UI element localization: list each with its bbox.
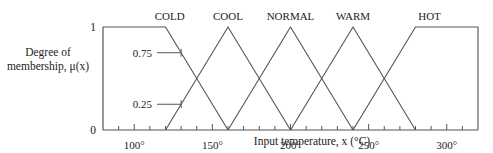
curve-normal (228, 27, 353, 130)
series-label-cold: COLD (155, 10, 185, 22)
x-tick-label: 300° (436, 139, 457, 151)
curve-cold (103, 27, 228, 130)
annotation-label: 0.25 (133, 98, 153, 110)
y-axis-label-line: membership, μ(x) (7, 60, 89, 73)
x-tick-label: 100° (124, 139, 145, 151)
y-axis-label-line: Degree of (25, 46, 71, 59)
y-tick-label: 1 (90, 21, 96, 33)
curve-warm (291, 27, 416, 130)
series-labels: COLDCOOLNORMALWARMHOT (155, 10, 441, 22)
axes (103, 27, 478, 130)
membership-curves (103, 27, 478, 130)
series-label-normal: NORMAL (267, 10, 315, 22)
series-label-warm: WARM (336, 10, 370, 22)
y-tick-label: 0 (90, 124, 96, 136)
x-axis-label: Input temperature, x (°C) (254, 135, 371, 148)
curve-hot (353, 27, 478, 130)
annotations: 0.750.25 (133, 47, 181, 111)
y-tick-labels: 01 (90, 21, 96, 136)
curve-cool (166, 27, 291, 130)
y-axis-label: Degree ofmembership, μ(x) (7, 46, 89, 73)
x-tick-label: 150° (202, 139, 223, 151)
annotation-label: 0.75 (133, 47, 153, 59)
membership-chart: Degree ofmembership, μ(x) 01 100°150°200… (0, 0, 493, 153)
series-label-hot: HOT (418, 10, 441, 22)
series-label-cool: COOL (213, 10, 243, 22)
